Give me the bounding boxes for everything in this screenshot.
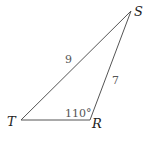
angle-label-r: 110° [65, 107, 92, 120]
triangle-tsr [21, 11, 131, 120]
vertex-label-t: T [7, 114, 17, 129]
vertex-label-r: R [91, 116, 102, 131]
triangle-diagram: S T R 9 7 110° [0, 0, 151, 149]
vertex-label-s: S [134, 4, 143, 19]
side-label-rs: 7 [112, 74, 119, 87]
side-label-ts: 9 [65, 53, 72, 66]
